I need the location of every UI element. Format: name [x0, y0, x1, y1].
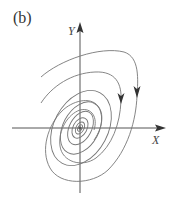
equilibrium-point: [78, 126, 81, 129]
axes: [12, 28, 160, 193]
y-axis-label: Y: [68, 24, 75, 39]
phase-portrait-svg: [0, 0, 177, 203]
panel-label: (b): [13, 9, 32, 27]
trajectories: [38, 51, 137, 182]
trajectory-inner: [41, 72, 121, 163]
x-axis-label: X: [152, 133, 159, 148]
phase-portrait-figure: (b) Y X: [0, 0, 177, 203]
